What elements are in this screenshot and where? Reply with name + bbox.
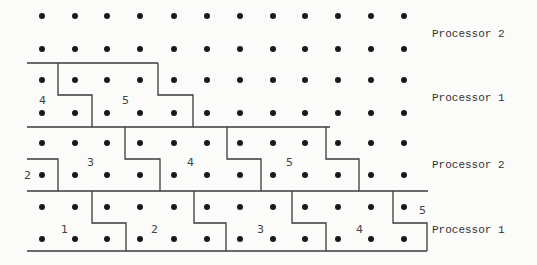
- grid-dot: [335, 204, 341, 210]
- grid-dot: [204, 46, 210, 52]
- grid-dot: [401, 140, 407, 146]
- grid-dot: [204, 204, 210, 210]
- grid-dot: [335, 77, 341, 83]
- region-label: 4: [356, 223, 363, 236]
- grid-dot: [335, 13, 341, 19]
- boundary-line: [326, 127, 359, 191]
- grid-dot: [171, 13, 177, 19]
- grid-dot: [401, 204, 407, 210]
- boundary-line: [194, 191, 226, 251]
- grid-dot: [302, 77, 308, 83]
- region-number-labels: 45234512345: [24, 94, 426, 236]
- region-label: 4: [187, 156, 194, 169]
- grid-dot: [39, 140, 45, 146]
- grid-dot: [302, 110, 308, 116]
- grid-dot: [237, 77, 243, 83]
- grid-dot: [401, 46, 407, 52]
- grid-dot: [72, 140, 78, 146]
- grid-dot: [401, 77, 407, 83]
- processor-label: Processor 1: [432, 224, 505, 236]
- region-label: 2: [24, 169, 31, 182]
- grid-dot: [237, 46, 243, 52]
- boundary-line: [58, 63, 92, 127]
- grid-dot: [137, 13, 143, 19]
- grid-dot: [39, 77, 45, 83]
- grid-dot: [72, 204, 78, 210]
- grid-dot: [204, 140, 210, 146]
- region-label: 4: [39, 94, 46, 107]
- boundary-line: [158, 63, 193, 127]
- grid-dot: [237, 172, 243, 178]
- grid-dot: [302, 172, 308, 178]
- grid-dot: [401, 236, 407, 242]
- grid-dot: [335, 172, 341, 178]
- processor-label: Processor 2: [432, 159, 505, 171]
- grid-dot: [302, 140, 308, 146]
- grid-dot: [237, 204, 243, 210]
- grid-dot: [137, 172, 143, 178]
- grid-dot: [72, 46, 78, 52]
- grid-dot: [237, 236, 243, 242]
- grid-dot: [72, 172, 78, 178]
- grid-dot: [270, 13, 276, 19]
- grid-dot: [368, 172, 374, 178]
- grid-dot: [104, 236, 110, 242]
- grid-dot: [137, 46, 143, 52]
- grid-dot: [335, 46, 341, 52]
- grid-dot: [137, 236, 143, 242]
- grid-dot: [270, 140, 276, 146]
- region-label: 3: [87, 156, 94, 169]
- grid-dot: [302, 204, 308, 210]
- grid-dot: [237, 140, 243, 146]
- grid-dot: [302, 236, 308, 242]
- grid-dot: [270, 110, 276, 116]
- grid-dot: [72, 110, 78, 116]
- region-label: 1: [61, 223, 68, 236]
- processor-label: Processor 1: [432, 92, 505, 104]
- boundary-line: [92, 191, 126, 251]
- grid-dot: [171, 140, 177, 146]
- grid-dot: [171, 46, 177, 52]
- grid-dot: [302, 46, 308, 52]
- grid-dot: [401, 110, 407, 116]
- grid-dot: [335, 140, 341, 146]
- boundary-line: [125, 127, 160, 191]
- grid-dot: [137, 110, 143, 116]
- grid-dot: [368, 110, 374, 116]
- grid-dot: [204, 13, 210, 19]
- grid-dot: [72, 236, 78, 242]
- grid-dot: [104, 140, 110, 146]
- grid-dot: [204, 77, 210, 83]
- grid-dot: [302, 13, 308, 19]
- grid-dot: [104, 204, 110, 210]
- grid-dot: [104, 172, 110, 178]
- grid-dot: [335, 236, 341, 242]
- grid-dot: [171, 204, 177, 210]
- grid-dot: [204, 110, 210, 116]
- grid-dot: [104, 46, 110, 52]
- region-label: 2: [151, 223, 158, 236]
- boundary-line: [393, 191, 427, 251]
- grid-dot: [39, 46, 45, 52]
- grid-dot: [368, 77, 374, 83]
- grid-dot: [104, 110, 110, 116]
- region-label: 5: [122, 94, 129, 107]
- grid-dot: [72, 13, 78, 19]
- grid-dot: [171, 77, 177, 83]
- grid-dot: [171, 236, 177, 242]
- grid-dot: [171, 110, 177, 116]
- grid-dot: [39, 110, 45, 116]
- processor-partition-diagram: 45234512345 Processor 2Processor 1Proces…: [0, 0, 537, 265]
- grid-dot: [401, 13, 407, 19]
- grid-dot: [72, 77, 78, 83]
- grid-dot: [137, 77, 143, 83]
- boundary-line: [292, 191, 326, 251]
- region-label: 5: [419, 204, 426, 217]
- grid-dot: [368, 46, 374, 52]
- grid-dot: [368, 13, 374, 19]
- grid-dot: [39, 172, 45, 178]
- grid-dot: [104, 13, 110, 19]
- grid-dot: [270, 46, 276, 52]
- grid-dot: [137, 140, 143, 146]
- grid-dot: [270, 172, 276, 178]
